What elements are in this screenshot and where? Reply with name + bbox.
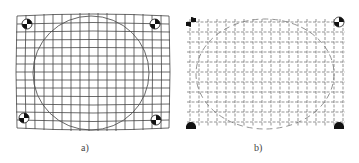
panel-a-label: a): [81, 142, 89, 153]
distorted-grid-image: [14, 10, 172, 134]
panel-a-distorted-grid: [14, 10, 172, 134]
panel-b-corrected-grid: [185, 15, 347, 133]
corrected-grid-image: [185, 15, 347, 133]
panel-b-label: b): [254, 142, 262, 153]
